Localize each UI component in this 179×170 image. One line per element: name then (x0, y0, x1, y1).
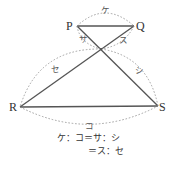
segment-rs (20, 106, 158, 107)
equation-line-1: ケ：コ＝サ：シ (57, 133, 120, 143)
intersection-point (100, 48, 102, 50)
arc-label-se: セ (51, 64, 60, 74)
vertex-label-q: Q (136, 19, 145, 33)
similar-triangles-diagram: P Q R S ケ コ サ シ ス セ ケ：コ＝サ：シ ＝ス：セ (0, 0, 179, 170)
segment-qr (20, 26, 134, 107)
vertex-label-r: R (9, 100, 17, 114)
arc-label-shi: シ (135, 65, 144, 75)
arc-label-su: ス (119, 35, 128, 45)
arc-label-ko: コ (85, 121, 94, 131)
equation-line-2: ＝ス：セ (88, 146, 124, 156)
arc-label-sa: サ (79, 34, 88, 44)
vertex-label-p: P (66, 19, 73, 33)
vertex-label-s: S (159, 100, 166, 114)
arc-label-ke: ケ (101, 5, 110, 15)
